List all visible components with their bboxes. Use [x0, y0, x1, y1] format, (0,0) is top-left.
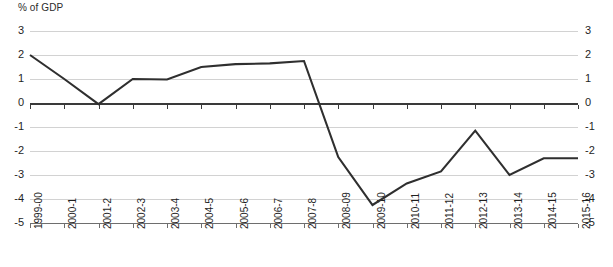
y-axis-tick-label-left: -2 — [2, 145, 24, 156]
x-axis-tick-bottom — [338, 224, 339, 228]
y-axis-tick-label-left: -4 — [2, 193, 24, 204]
y-axis-tick-label-left: 1 — [2, 73, 24, 84]
x-axis-tick-label: 1999-00 — [34, 192, 44, 229]
x-axis-tick-label: 2002-3 — [137, 198, 147, 229]
x-axis-tick-label: 2007-8 — [308, 198, 318, 229]
x-axis-tick-bottom — [407, 224, 408, 228]
x-axis-tick — [64, 105, 65, 109]
x-axis-tick — [373, 105, 374, 109]
y-axis-tick-label-left: 3 — [2, 25, 24, 36]
gridline — [30, 127, 578, 128]
x-axis-tick-label: 2003-4 — [171, 198, 181, 229]
x-axis-tick-label: 2012-13 — [479, 192, 489, 229]
x-axis-tick — [270, 105, 271, 109]
y-axis-tick-label-right: -3 — [585, 169, 609, 180]
plot-area — [30, 31, 578, 223]
x-axis-tick-bottom — [30, 224, 31, 228]
y-axis-tick-label-left: -5 — [2, 217, 24, 228]
x-axis-tick-bottom — [304, 224, 305, 228]
x-axis-tick-bottom — [578, 224, 579, 228]
x-axis-tick — [30, 105, 31, 109]
y-axis-tick-label-right: 3 — [585, 25, 609, 36]
x-axis-tick — [99, 105, 100, 109]
x-axis-tick — [407, 105, 408, 109]
x-axis-tick-label: 2010-11 — [411, 193, 421, 229]
x-axis-tick-bottom — [544, 224, 545, 228]
y-axis-tick-label-right: 1 — [585, 73, 609, 84]
x-axis-tick-bottom — [510, 224, 511, 228]
y-axis-tick-label-right: -1 — [585, 121, 609, 132]
chart-axis-title: % of GDP — [18, 2, 63, 13]
x-axis-tick — [338, 105, 339, 109]
y-axis-tick-label-left: 0 — [2, 97, 24, 108]
x-axis-tick-label: 2005-6 — [240, 198, 250, 229]
x-axis-tick-label: 2015-16 — [582, 192, 592, 229]
x-axis-tick — [304, 105, 305, 109]
chart-container: % of GDP 3210-1-2-3-4-5 3210-1-2-3-4-5 1… — [0, 0, 613, 267]
x-axis-tick-label: 2009-10 — [377, 192, 387, 229]
x-axis-tick-bottom — [441, 224, 442, 228]
x-axis-tick-bottom — [270, 224, 271, 228]
x-axis-tick-label: 2011-12 — [445, 193, 455, 229]
x-axis-tick-label: 2008-09 — [342, 192, 352, 229]
x-axis-tick-bottom — [167, 224, 168, 228]
x-axis-tick-bottom — [133, 224, 134, 228]
y-axis-tick-label-right: -2 — [585, 145, 609, 156]
y-axis-tick-label-right: 2 — [585, 49, 609, 60]
x-axis-tick-label: 2004-5 — [205, 198, 215, 229]
y-axis-tick-label-left: -3 — [2, 169, 24, 180]
x-axis-tick — [236, 105, 237, 109]
y-axis-tick-label-left: -1 — [2, 121, 24, 132]
x-axis-tick-label: 2014-15 — [548, 192, 558, 229]
x-axis-tick-bottom — [64, 224, 65, 228]
gridline — [30, 31, 578, 32]
x-axis-tick — [544, 105, 545, 109]
x-axis-tick-label: 2006-7 — [274, 198, 284, 229]
x-axis-tick-bottom — [236, 224, 237, 228]
x-axis-tick-bottom — [373, 224, 374, 228]
gridline — [30, 79, 578, 80]
x-axis-tick — [441, 105, 442, 109]
gridline — [30, 175, 578, 176]
x-axis-tick-label: 2001-2 — [103, 198, 113, 229]
x-axis-tick — [475, 105, 476, 109]
x-axis-tick-bottom — [475, 224, 476, 228]
x-axis-tick — [578, 105, 579, 109]
x-axis-tick — [133, 105, 134, 109]
x-axis-tick-label: 2000-1 — [68, 198, 78, 229]
x-axis-tick-bottom — [201, 224, 202, 228]
y-axis-tick-label-right: 0 — [585, 97, 609, 108]
x-axis-tick — [201, 105, 202, 109]
gridline — [30, 151, 578, 152]
x-axis-tick — [510, 105, 511, 109]
x-axis-tick — [167, 105, 168, 109]
x-axis-tick-bottom — [99, 224, 100, 228]
x-axis-tick-label: 2013-14 — [514, 192, 524, 229]
y-axis-tick-label-left: 2 — [2, 49, 24, 60]
gridline — [30, 55, 578, 56]
